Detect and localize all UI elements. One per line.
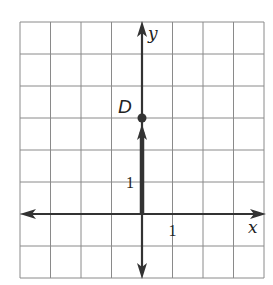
y-axis-label: y <box>147 23 158 43</box>
marks <box>137 114 147 215</box>
point-d <box>138 114 147 123</box>
y-tick-label: 1 <box>126 174 134 191</box>
x-tick-label: 1 <box>169 222 177 239</box>
coordinate-plane: x y 1 1 D <box>0 0 273 285</box>
x-axis-label: x <box>248 217 258 237</box>
point-label-d: D <box>118 96 132 117</box>
